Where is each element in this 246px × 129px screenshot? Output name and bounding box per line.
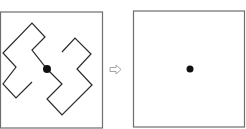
right-arrow-icon bbox=[110, 65, 121, 74]
diagram-canvas bbox=[0, 0, 246, 129]
right-point-dot bbox=[187, 66, 194, 73]
left-point-dot bbox=[43, 65, 51, 73]
left-panel-frame bbox=[1, 12, 103, 128]
